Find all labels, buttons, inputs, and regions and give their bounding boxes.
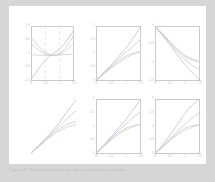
- panel-1-xtick-mark: [74, 80, 75, 81]
- panel-2-ytick-mark: [96, 54, 97, 55]
- figure-caption: Figure 3: Estimated curves for the six s…: [10, 167, 160, 176]
- panel-6-xtick-label: 0: [154, 155, 156, 158]
- series-curve-c: [155, 125, 200, 154]
- panel-1-ytick-mark: [31, 67, 32, 68]
- panel-6-ytick-label: 1: [152, 125, 154, 128]
- series-curve-d: [96, 51, 141, 80]
- plot-panel-4: [31, 99, 76, 154]
- panel-3-xtick-label: 1.5: [198, 82, 202, 85]
- panel-4-curves: [31, 99, 76, 154]
- panel-1-ytick-label: 0.5: [26, 38, 30, 41]
- panel-1-ytick-label: 0: [28, 52, 30, 55]
- panel-5-xtick-mark: [111, 153, 112, 154]
- panel-1-ytick-mark: [31, 54, 32, 55]
- panel-6-ytick-label: 0.5: [150, 139, 154, 142]
- panel-5-ytick-mark: [96, 140, 97, 141]
- panel-2-xtick-mark: [126, 80, 127, 81]
- panel-3-xtick-label: 1: [184, 82, 186, 85]
- plot-panel-2: 00.511.5200.511.5: [96, 26, 141, 81]
- series-curve-d: [155, 125, 200, 154]
- panel-1-xtick-label: 0: [30, 82, 32, 85]
- series-curve-a: [155, 27, 200, 81]
- panel-5-ytick-label: 0.5: [91, 139, 95, 142]
- panel-5-ytick-mark: [96, 127, 97, 128]
- panel-1-ytick-mark: [31, 40, 32, 41]
- panel-2-xtick-mark: [96, 80, 97, 81]
- panel-3-curves: [155, 26, 200, 81]
- panel-3-xtick-mark: [155, 80, 156, 81]
- series-curve-d: [155, 27, 200, 61]
- series-curve-c: [96, 52, 141, 81]
- panel-5-ytick-mark: [96, 113, 97, 114]
- plot-panel-5: 00.511.5200.511.5: [96, 99, 141, 154]
- panel-6-curves: [155, 99, 200, 154]
- panel-2-ytick-mark: [96, 67, 97, 68]
- panel-2-xtick-label: 1.5: [139, 82, 143, 85]
- panel-2-xtick-label: 0.5: [109, 82, 113, 85]
- panel-6-xtick-label: 0.5: [168, 155, 172, 158]
- panel-1-ytick-label: -1.0: [24, 79, 29, 82]
- panel-5-ytick-label: 2: [93, 97, 95, 100]
- panel-6-xtick-label: 1: [184, 155, 186, 158]
- panel-3-ytick-mark: [155, 44, 156, 45]
- panel-2-curves: [96, 26, 141, 81]
- figure-screenshot: -1.0-0.500.51.000.511.5 00.511.5200.511.…: [0, 0, 215, 182]
- panel-3-ytick-label: -1.5: [148, 79, 153, 82]
- panel-2-ytick-label: 2: [93, 24, 95, 27]
- panel-2-xtick-label: 0: [95, 82, 97, 85]
- panel-5-xtick-mark: [126, 153, 127, 154]
- panel-5-ytick-mark: [96, 99, 97, 100]
- panel-3-xtick-label: 0: [154, 82, 156, 85]
- panel-2-ytick-label: 1.5: [91, 38, 95, 41]
- panel-2-xtick-mark: [141, 80, 142, 81]
- panel-3-ytick-label: -1: [151, 61, 154, 64]
- panel-6-ytick-mark: [155, 140, 156, 141]
- panel-1-ytick-mark: [31, 26, 32, 27]
- series-curve-c: [96, 125, 141, 154]
- plot-panel-3: -1.5-1-0.5000.511.5: [155, 26, 200, 81]
- panel-6-xtick-mark: [155, 153, 156, 154]
- panel-1-xtick-label: 1: [59, 82, 61, 85]
- panel-5-xtick-mark: [96, 153, 97, 154]
- panel-6-ytick-mark: [155, 113, 156, 114]
- panel-2-ytick-label: 0.5: [91, 66, 95, 69]
- panel-1-xtick-label: 0.5: [43, 82, 47, 85]
- panel-6-xtick-mark: [170, 153, 171, 154]
- panel-2-ytick-mark: [96, 40, 97, 41]
- panel-6-xtick-mark: [185, 153, 186, 154]
- panel-6-xtick-label: 1.5: [198, 155, 202, 158]
- panel-5-xtick-label: 1: [125, 155, 127, 158]
- panel-6-xtick-mark: [200, 153, 201, 154]
- plot-panel-1: -1.0-0.500.51.000.511.5: [31, 26, 74, 81]
- panel-2-ytick-label: 1: [93, 52, 95, 55]
- plot-panel-6: 00.511.5200.511.5: [155, 99, 200, 154]
- panel-5-ytick-label: 1.5: [91, 111, 95, 114]
- panel-2-xtick-label: 1: [125, 82, 127, 85]
- panel-6-ytick-label: 2: [152, 97, 154, 100]
- panel-3-xtick-label: 0.5: [168, 82, 172, 85]
- panel-3-ytick-label: 0: [152, 24, 154, 27]
- panel-5-xtick-label: 0: [95, 155, 97, 158]
- panel-2-ytick-mark: [96, 26, 97, 27]
- panel-6-ytick-mark: [155, 127, 156, 128]
- paper-page: -1.0-0.500.51.000.511.5 00.511.5200.511.…: [9, 6, 206, 164]
- panel-3-xtick-mark: [170, 80, 171, 81]
- series-curve-a: [155, 99, 200, 153]
- panel-1-xtick-label: 1.5: [72, 82, 76, 85]
- series-curve-c: [155, 27, 200, 63]
- panel-5-ytick-label: 1: [93, 125, 95, 128]
- panel-1-xtick-mark: [31, 80, 32, 81]
- panel-3-ytick-label: -0.5: [148, 43, 153, 46]
- panel-3-ytick-mark: [155, 63, 156, 64]
- panel-6-ytick-mark: [155, 99, 156, 100]
- panel-5-xtick-mark: [141, 153, 142, 154]
- panel-5-xtick-label: 0.5: [109, 155, 113, 158]
- panel-2-xtick-mark: [111, 80, 112, 81]
- panel-6-ytick-label: 1.5: [150, 111, 154, 114]
- panel-1-xtick-mark: [60, 80, 61, 81]
- panel-1-ytick-label: -0.5: [24, 66, 29, 69]
- panel-1-curves: [31, 26, 74, 81]
- panel-3-ytick-mark: [155, 26, 156, 27]
- panel-3-xtick-mark: [200, 80, 201, 81]
- panel-1-ytick-label: 1.0: [26, 24, 30, 27]
